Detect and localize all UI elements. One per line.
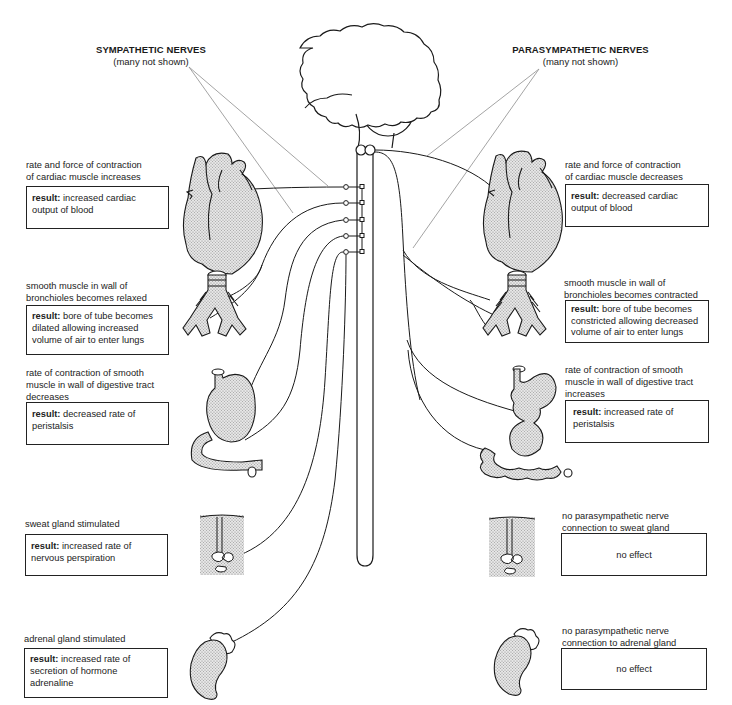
parasympathetic-digestive-result-box: result: increased rate of peristalsis [565,400,709,443]
result-label: result: [32,311,60,321]
ganglion-2 [344,201,364,206]
result-label: result: [32,409,60,419]
ganglion-3 [344,218,364,223]
vagus-to-stomach [407,340,530,415]
description-line: of cardiac muscle increases [26,171,142,183]
sympathetic-digestive-description: rate of contraction of smooth muscle in … [26,367,154,403]
result-text: dilated allowing increased [32,322,163,334]
spinal-cord [356,145,375,566]
result-text: secretion of hormone [30,665,162,677]
sympathetic-bronchioles-description: smooth muscle in wall of bronchioles bec… [26,280,147,304]
parasympathetic-sweat-result-box: no effect [561,533,707,576]
sympathetic-subtitle: (many not shown) [86,56,216,68]
vagus-trunk [375,152,420,400]
parasympathetic-heart-result-box: result: decreased cardiac output of bloo… [565,184,709,227]
sweat-gland-right [489,517,535,577]
adrenal-gland-left [190,633,235,700]
parasympathetic-bronchioles-result-box: result: bore of tube becomes constricted… [565,300,709,343]
description-line: smooth muscle in wall of [26,280,147,292]
result-text: volume of air to enter lungs [571,327,703,339]
result-text: constricted allowing decreased [571,316,703,328]
result-text: increased rate of [62,541,131,551]
parasympathetic-digestive-description: rate of contraction of smooth muscle in … [565,364,693,400]
brain [300,24,441,148]
vagus-to-heart [375,150,495,190]
result-text: decreased cardiac [602,191,678,201]
ganglion-5 [344,250,364,255]
description-line: of cardiac muscle decreases [565,171,683,183]
result-label: result: [30,654,58,664]
cerebrum [300,24,441,128]
parasympathetic-header: PARASYMPATHETIC NERVES (many not shown) [503,44,658,68]
heart-right [483,151,562,272]
sweat-gland-left [200,515,244,575]
stomach-left [191,369,262,477]
result-text: peristalsis [32,420,163,432]
result-label: result: [571,304,599,314]
sympathetic-digestive-result-box: result: decreased rate of peristalsis [26,402,169,445]
parasympathetic-title: PARASYMPATHETIC NERVES [503,44,658,56]
ganglion-1 [344,185,364,190]
parasympathetic-adrenal-description: no parasympathetic nerve connection to a… [562,625,676,649]
description-line: muscle in wall of digestive tract [26,379,154,391]
result-text: bore of tube becomes [602,304,692,314]
sympathetic-title: SYMPATHETIC NERVES [86,44,216,56]
result-text: increased cardiac [63,193,136,203]
result-label: result: [32,193,60,203]
stomach-right-intestine [480,366,572,480]
description-line: rate of contraction of smooth [565,364,693,376]
result-text: output of blood [32,204,163,216]
parasympathetic-bronchioles-description: smooth muscle in wall of bronchioles bec… [564,277,698,301]
result-text: increased rate of [604,407,673,417]
sympathetic-adrenal-description: adrenal gland stimulated [24,633,125,645]
parasympathetic-sweat-description: no parasympathetic nerve connection to s… [562,510,670,534]
result-label: result: [573,407,601,417]
description-line: adrenal gland stimulated [24,633,125,645]
result-text: nervous perspiration [31,552,162,564]
result-label: result: [571,191,599,201]
sympathetic-header: SYMPATHETIC NERVES (many not shown) [86,44,216,68]
sympathetic-sweat-description: sweat gland stimulated [25,518,120,530]
description-line: bronchioles becomes relaxed [26,292,147,304]
description-line: muscle in wall of digestive tract [565,376,693,388]
result-text: increased rate of [61,654,130,664]
description-line: smooth muscle in wall of [564,277,698,289]
parasympathetic-adrenal-result-box: no effect [561,648,707,690]
nerve-to-stomach [248,220,343,395]
result-text: output of blood [571,202,703,214]
result-text: no effect [616,549,652,561]
description-line: rate and force of contraction [565,159,683,171]
description-line: rate and force of contraction [26,159,142,171]
adrenal-gland-right [494,629,539,696]
result-text: volume of air to enter lungs [32,334,163,346]
bronchioles-left [183,271,246,336]
result-text: peristalsis [573,418,703,430]
description-line: rate of contraction of smooth [26,367,154,379]
parasympathetic-subtitle: (many not shown) [503,56,658,68]
parasympathetic-heart-description: rate and force of contraction of cardiac… [565,159,683,183]
nerve-to-intestine [245,236,343,440]
result-text: no effect [616,663,652,675]
sympathetic-heart-description: rate and force of contraction of cardiac… [26,159,142,183]
heart-left [183,153,262,274]
result-text: decreased rate of [63,409,135,419]
sympathetic-bronchioles-result-box: result: bore of tube becomes dilated all… [26,305,169,355]
sympathetic-sweat-result-box: result: increased rate of nervous perspi… [25,534,168,576]
result-text: bore of tube becomes [63,311,153,321]
result-label: result: [31,541,59,551]
description-line: sweat gland stimulated [25,518,120,530]
sympathetic-heart-result-box: result: increased cardiac output of bloo… [26,186,169,229]
description-line: no parasympathetic nerve [562,625,676,637]
description-line: increases [565,388,693,400]
result-text: adrenaline [30,677,162,689]
ganglion-4 [344,234,364,239]
description-line: no parasympathetic nerve [562,510,670,522]
sympathetic-adrenal-result-box: result: increased rate of secretion of h… [24,648,168,698]
bronchioles-right [483,271,546,336]
